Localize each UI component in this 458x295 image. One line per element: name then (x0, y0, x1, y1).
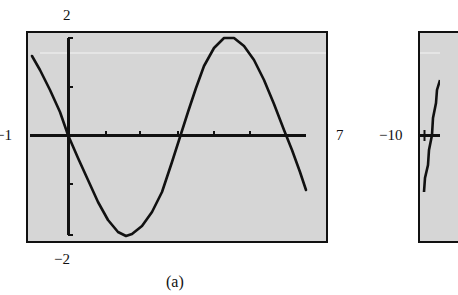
plot-b (0, 0, 440, 295)
